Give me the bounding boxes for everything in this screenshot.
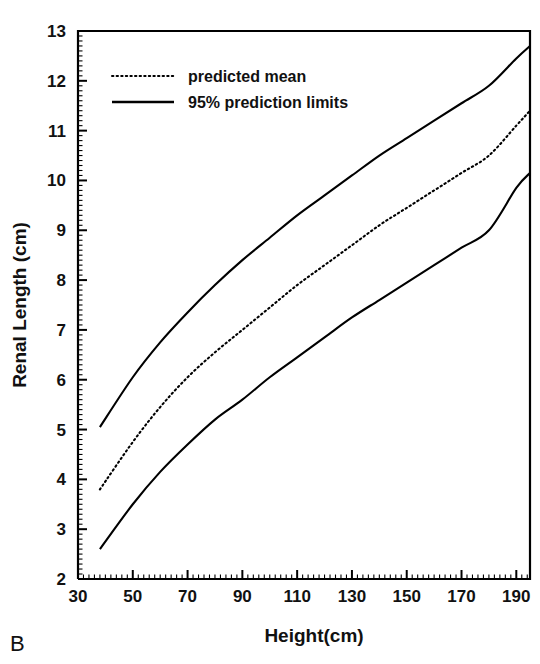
y-axis-tick-label: 9 xyxy=(57,221,66,240)
data-curve-mean xyxy=(100,111,530,490)
x-axis-tick-label: 170 xyxy=(447,587,475,606)
y-axis-tick-label: 4 xyxy=(57,470,67,489)
y-axis-tick-label: 12 xyxy=(47,72,66,91)
y-axis-tick-label: 10 xyxy=(47,171,66,190)
x-axis-tick-label: 30 xyxy=(69,587,88,606)
chart-figure: 234567891011121330507090110130150170190p… xyxy=(0,0,540,664)
x-axis-tick-label: 150 xyxy=(393,587,421,606)
legend-label: 95% prediction limits xyxy=(188,94,348,111)
y-axis-title: Renal Length (cm) xyxy=(9,222,30,388)
y-axis-tick-label: 2 xyxy=(57,570,66,589)
y-axis-tick-label: 3 xyxy=(57,520,66,539)
y-axis-tick-label: 13 xyxy=(47,22,66,41)
y-axis-tick-label: 8 xyxy=(57,271,66,290)
y-axis-tick-label: 11 xyxy=(48,122,66,141)
legend-label: predicted mean xyxy=(188,68,306,85)
x-axis-tick-label: 130 xyxy=(338,587,366,606)
panel-label: B xyxy=(10,631,25,656)
x-axis-tick-label: 110 xyxy=(283,587,310,606)
x-axis-tick-label: 190 xyxy=(502,587,530,606)
x-axis-tick-label: 90 xyxy=(233,587,252,606)
renal-length-vs-height-chart: 234567891011121330507090110130150170190p… xyxy=(0,0,540,664)
y-axis-tick-label: 7 xyxy=(57,321,66,340)
x-axis-title: Height(cm) xyxy=(264,625,363,646)
x-axis-tick-label: 70 xyxy=(178,587,197,606)
data-curve-lower-limit xyxy=(100,173,530,549)
y-axis-tick-label: 6 xyxy=(57,371,66,390)
x-axis-tick-label: 50 xyxy=(123,587,142,606)
plot-frame xyxy=(78,31,530,579)
y-axis-tick-label: 5 xyxy=(57,421,66,440)
